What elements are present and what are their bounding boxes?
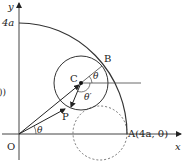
angle-theta-arc — [34, 126, 36, 134]
diagram: y x O 4a A(4a, 0) B C P θ θ θ′ )) — [0, 0, 183, 161]
x-axis-label: x — [175, 141, 181, 152]
y-axis-label: y — [7, 1, 14, 12]
angle-theta-B-arc — [89, 76, 92, 83]
vector-CP — [71, 83, 81, 107]
angle-theta-prime-label: θ′ — [84, 92, 91, 102]
y-tick-4a: 4a — [1, 17, 14, 28]
vector-OC — [19, 85, 79, 134]
angle-theta-B-label: θ — [93, 71, 99, 81]
point-B-label: B — [104, 53, 111, 64]
origin-label: O — [7, 141, 15, 152]
point-A-label: A(4a, 0) — [127, 128, 168, 139]
point-C-label: C — [70, 73, 78, 84]
left-edge-fragment: )) — [0, 87, 6, 97]
angle-theta-label: θ — [37, 125, 43, 135]
point-P-label: P — [62, 111, 69, 122]
dashed-circle — [73, 106, 127, 160]
point-C — [79, 81, 83, 85]
